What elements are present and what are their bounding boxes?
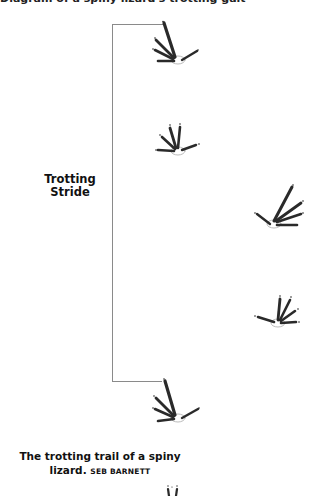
lizard-footprint-2 xyxy=(148,120,204,160)
stride-label: Trotting Stride xyxy=(20,173,120,199)
lizard-footprint-6-partial xyxy=(162,484,184,496)
stride-bracket-vertical-line xyxy=(112,24,113,381)
figure-caption: The trotting trail of a spiny lizard. SE… xyxy=(0,449,200,479)
cropped-heading-text: Diagram of a spiny lizard's trotting gai… xyxy=(0,0,246,5)
lizard-footprint-4 xyxy=(250,292,306,332)
lizard-footprint-5 xyxy=(150,376,205,426)
photo-credit: SEB BARNETT xyxy=(90,467,150,476)
lizard-footprint-3 xyxy=(252,184,312,234)
lizard-footprint-1 xyxy=(150,20,200,70)
stride-label-line2: Stride xyxy=(20,186,120,199)
